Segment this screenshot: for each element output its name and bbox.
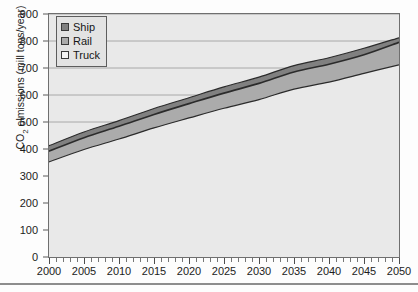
y-tick-label: 700 (20, 63, 38, 74)
x-minor-tick (63, 258, 64, 262)
x-major-tick (399, 258, 400, 264)
x-minor-tick (70, 258, 71, 262)
x-minor-tick (336, 258, 337, 262)
x-axis: 2000200520102015202020252030203520402045… (48, 258, 400, 286)
y-tick-label: 300 (20, 171, 38, 182)
y-tick-label: 800 (20, 36, 38, 47)
x-major-tick (294, 258, 295, 264)
area-bands (49, 38, 399, 257)
y-tick-label: 100 (20, 225, 38, 236)
x-minor-tick (217, 258, 218, 262)
x-tick-label: 2005 (72, 266, 96, 277)
x-major-tick (84, 258, 85, 264)
x-major-tick (154, 258, 155, 264)
y-tick-label: 900 (20, 9, 38, 20)
x-minor-tick (343, 258, 344, 262)
legend-item-truck: Truck (61, 48, 100, 62)
y-tick-label: 200 (20, 198, 38, 209)
y-tick-label: 400 (20, 144, 38, 155)
x-minor-tick (357, 258, 358, 262)
x-major-tick (364, 258, 365, 264)
x-minor-tick (77, 258, 78, 262)
legend-item-rail: Rail (61, 34, 100, 48)
x-minor-tick (273, 258, 274, 262)
x-major-tick (49, 258, 50, 264)
chart-figure: CO2 elmissions (mill tons/year) 01002003… (0, 0, 418, 292)
y-axis: 0100200300400500600700800900 (0, 13, 44, 258)
x-minor-tick (203, 258, 204, 262)
y-tick-label: 500 (20, 117, 38, 128)
x-minor-tick (56, 258, 57, 262)
x-minor-tick (287, 258, 288, 262)
x-minor-tick (168, 258, 169, 262)
x-minor-tick (301, 258, 302, 262)
x-minor-tick (231, 258, 232, 262)
legend-swatch-ship (61, 23, 69, 31)
legend-label: Rail (73, 36, 92, 47)
x-tick-label: 2020 (177, 266, 201, 277)
x-minor-tick (147, 258, 148, 262)
legend-label: Ship (73, 22, 95, 33)
x-minor-tick (210, 258, 211, 262)
x-minor-tick (238, 258, 239, 262)
x-minor-tick (350, 258, 351, 262)
x-major-tick (189, 258, 190, 264)
x-minor-tick (308, 258, 309, 262)
x-minor-tick (280, 258, 281, 262)
x-minor-tick (140, 258, 141, 262)
x-tick-label: 2040 (317, 266, 341, 277)
x-minor-tick (126, 258, 127, 262)
x-minor-tick (266, 258, 267, 262)
x-minor-tick (112, 258, 113, 262)
x-major-tick (224, 258, 225, 264)
x-tick-label: 2035 (282, 266, 306, 277)
footer-divider (0, 283, 418, 285)
x-minor-tick (98, 258, 99, 262)
x-tick-label: 2015 (142, 266, 166, 277)
x-minor-tick (245, 258, 246, 262)
x-minor-tick (105, 258, 106, 262)
x-minor-tick (315, 258, 316, 262)
x-minor-tick (161, 258, 162, 262)
x-major-tick (329, 258, 330, 264)
x-tick-label: 2030 (247, 266, 271, 277)
y-tick-label: 0 (32, 252, 38, 263)
legend-item-ship: Ship (61, 20, 100, 34)
x-minor-tick (91, 258, 92, 262)
x-minor-tick (182, 258, 183, 262)
x-tick-label: 2025 (212, 266, 236, 277)
x-major-tick (119, 258, 120, 264)
x-tick-label: 2000 (37, 266, 61, 277)
legend-swatch-rail (61, 37, 69, 45)
x-minor-tick (175, 258, 176, 262)
x-tick-label: 2045 (352, 266, 376, 277)
x-minor-tick (378, 258, 379, 262)
x-minor-tick (371, 258, 372, 262)
x-minor-tick (392, 258, 393, 262)
y-tick-label: 600 (20, 90, 38, 101)
x-minor-tick (133, 258, 134, 262)
x-minor-tick (385, 258, 386, 262)
legend: ShipRailTruck (56, 16, 107, 67)
x-minor-tick (196, 258, 197, 262)
legend-label: Truck (73, 50, 100, 61)
x-tick-label: 2010 (107, 266, 131, 277)
x-tick-label: 2050 (387, 266, 411, 277)
x-minor-tick (252, 258, 253, 262)
legend-swatch-truck (61, 51, 69, 59)
x-major-tick (259, 258, 260, 264)
x-minor-tick (322, 258, 323, 262)
